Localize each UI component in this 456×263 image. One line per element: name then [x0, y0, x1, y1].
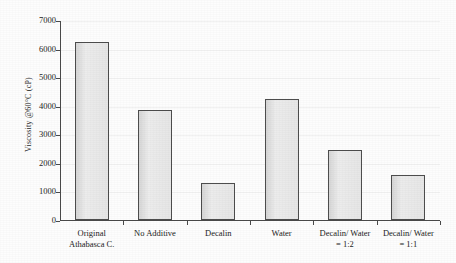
- gridline: [61, 107, 440, 108]
- y-axis-tick-label: 5000: [22, 72, 56, 82]
- x-axis-tick: [313, 221, 314, 225]
- y-axis-tick: [56, 192, 60, 193]
- y-axis-tick: [56, 107, 60, 108]
- category-label-line: Decalin/ Water: [377, 228, 440, 239]
- y-axis-tick-label: 3000: [22, 129, 56, 139]
- y-axis-tick-label: 2000: [22, 158, 56, 168]
- gridline: [61, 192, 440, 193]
- x-axis-category-label: Water: [250, 228, 313, 239]
- y-axis-tick-label: 6000: [22, 44, 56, 54]
- bar: [138, 110, 172, 220]
- category-label-line: No Additive: [123, 228, 186, 239]
- y-axis-tick: [56, 135, 60, 136]
- y-axis-tick-label: 4000: [22, 101, 56, 111]
- gridline: [61, 164, 440, 165]
- bar: [391, 175, 425, 220]
- x-axis-category-label: OriginalAthabasca C.: [60, 228, 123, 250]
- bar: [75, 42, 109, 220]
- x-axis-category-label: No Additive: [123, 228, 186, 239]
- y-axis-tick: [56, 164, 60, 165]
- category-label-line: Original: [60, 228, 123, 239]
- y-axis-tick: [56, 21, 60, 22]
- plot-area: 01000200030004000500060007000: [60, 21, 440, 221]
- gridline: [61, 21, 440, 22]
- bar-chart-figure: Viscosity @60°C (cP) 0100020003000400050…: [0, 0, 456, 263]
- y-axis-line: [60, 21, 61, 221]
- category-label-line: Decalin/ Water: [313, 228, 376, 239]
- bar: [265, 99, 299, 220]
- y-axis-tick-label: 0: [22, 215, 56, 225]
- gridline: [61, 78, 440, 79]
- category-label-line: Athabasca C.: [60, 239, 123, 250]
- x-axis-tick: [123, 221, 124, 225]
- x-axis-tick: [250, 221, 251, 225]
- x-axis-tick: [377, 221, 378, 225]
- y-axis-tick-label: 1000: [22, 186, 56, 196]
- x-axis-category-label: Decalin/ Water= 1:2: [313, 228, 376, 250]
- bar: [201, 183, 235, 220]
- y-axis-tick: [56, 221, 60, 222]
- x-axis-tick: [187, 221, 188, 225]
- y-axis-tick: [56, 78, 60, 79]
- x-axis-category-label: Decalin/ Water= 1:1: [377, 228, 440, 250]
- category-label-line: Decalin: [187, 228, 250, 239]
- y-axis-tick: [56, 50, 60, 51]
- category-label-line: = 1:1: [377, 239, 440, 250]
- category-label-line: Water: [250, 228, 313, 239]
- category-label-line: = 1:2: [313, 239, 376, 250]
- x-axis-category-label: Decalin: [187, 228, 250, 239]
- gridline: [61, 135, 440, 136]
- x-axis-tick: [440, 221, 441, 225]
- gridline: [61, 50, 440, 51]
- y-axis-tick-label: 7000: [22, 15, 56, 25]
- bar: [328, 150, 362, 220]
